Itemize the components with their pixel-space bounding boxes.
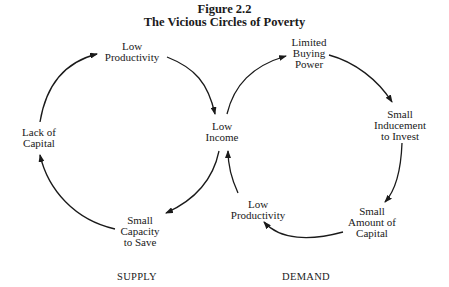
node-small-inducement-to-invest: Small Inducement to Invest [374,109,426,142]
supply-label: SUPPLY [117,271,157,282]
arrow-save-to-capital [40,155,115,229]
node-low-productivity: Low Productivity [105,41,159,63]
node-lack-of-capital: Lack of Capital [22,127,56,149]
arrow-capital-to-productivity [40,54,97,122]
node-low-productivity-demand: Low Productivity [231,199,285,221]
arrow-amount-to-low-productivity [264,222,343,238]
node-small-capacity-to-save: Small Capacity to Save [120,215,159,248]
node-limited-buying-power: Limited Buying Power [292,37,327,70]
circles-diagram [0,0,449,287]
arrow-buying-power-to-inducement [329,55,392,102]
arrow-productivity-to-income [167,57,215,114]
demand-label: DEMAND [282,271,330,282]
node-low-income: Low Income [206,121,239,143]
arrow-income-to-buying-power [227,56,286,114]
node-small-amount-of-capital: Small Amount of Capital [348,206,396,239]
arrow-income-to-save [166,151,219,213]
arrow-low-productivity-to-income [228,151,238,193]
arrow-inducement-to-amount [385,143,402,202]
